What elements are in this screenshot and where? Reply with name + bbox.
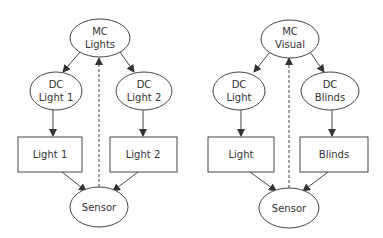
node-label: DC (232, 79, 247, 90)
node-label: Light 2 (126, 149, 161, 160)
node-label: Light 2 (127, 92, 162, 103)
node-label: DC (323, 79, 338, 90)
node-label: Light (229, 149, 254, 160)
node-label: Blinds (319, 149, 349, 160)
node-light2-box: Light 2 (110, 137, 177, 172)
node-label: MC (92, 26, 108, 37)
edge-mc-to-dc-light2 (120, 52, 134, 72)
node-dc-light1: DC Light 1 (30, 72, 82, 110)
edge-light2-to-sensor (113, 172, 138, 191)
edge-light-to-sensor (250, 172, 276, 191)
node-dc-light2: DC Light 2 (116, 72, 172, 110)
node-label: Light 1 (33, 149, 68, 160)
diagram-visual: MC Visual DC Light DC Blinds Light Blind… (208, 20, 368, 228)
edge-mc-to-dc-blinds (310, 52, 324, 72)
node-label: Lights (85, 39, 115, 50)
node-label: DC (49, 79, 64, 90)
edge-light1-to-sensor (62, 172, 86, 191)
node-light-box: Light (208, 137, 274, 172)
node-sensor: Sensor (259, 188, 319, 228)
node-label: Blinds (315, 92, 345, 103)
node-sensor: Sensor (70, 187, 128, 227)
node-mc-visual: MC Visual (261, 20, 319, 58)
diagram-canvas: MC Lights DC Light 1 DC Light 2 Light 1 … (0, 0, 383, 238)
node-label: Sensor (82, 202, 117, 213)
edge-mc-to-dc-light1 (63, 52, 80, 72)
node-mc-lights: MC Lights (70, 19, 130, 57)
edge-blinds-to-sensor (303, 172, 328, 191)
node-label: Light 1 (39, 92, 74, 103)
node-label: Light (227, 92, 252, 103)
node-dc-light: DC Light (213, 72, 265, 110)
edge-mc-to-dc-light (254, 52, 270, 72)
node-label: Visual (275, 39, 305, 50)
node-label: Sensor (272, 203, 307, 214)
node-blinds-box: Blinds (300, 137, 368, 172)
node-light1-box: Light 1 (18, 137, 82, 172)
node-label: MC (282, 26, 298, 37)
node-dc-blinds: DC Blinds (301, 72, 359, 110)
diagram-lights: MC Lights DC Light 1 DC Light 2 Light 1 … (18, 19, 177, 227)
node-label: DC (137, 79, 152, 90)
